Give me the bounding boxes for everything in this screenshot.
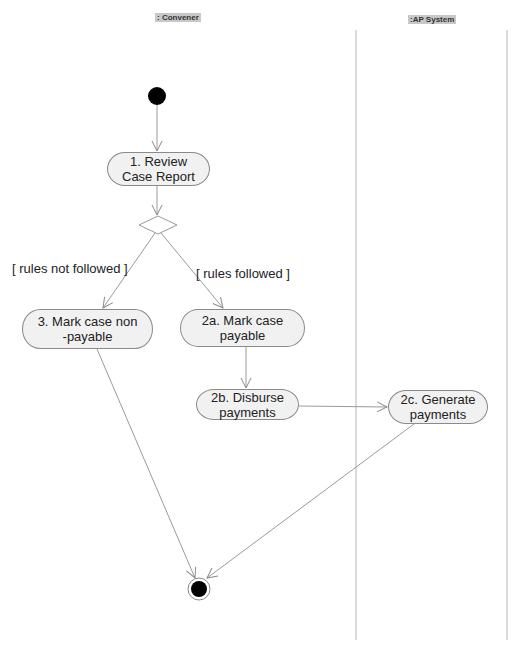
action-disburse-payments[interactable]: 2b. Disburse payments	[196, 389, 299, 420]
action-label: 2a. Mark case payable	[202, 313, 284, 343]
swimlane-label-convener: : Convener	[155, 13, 201, 22]
action-label: 2b. Disburse payments	[211, 390, 284, 420]
initial-node[interactable]	[148, 87, 166, 105]
edge-generate-to-final	[207, 424, 414, 578]
action-mark-case-payable[interactable]: 2a. Mark case payable	[180, 309, 305, 347]
final-node-core	[191, 581, 207, 597]
action-label: 3. Mark case non -payable	[38, 314, 138, 344]
action-generate-payments[interactable]: 2c. Generate payments	[388, 390, 488, 424]
guard-rules-not-followed: [ rules not followed ]	[12, 261, 128, 276]
action-label: 2c. Generate payments	[400, 392, 475, 422]
guard-rules-followed: [ rules followed ]	[196, 266, 290, 281]
swimlane-label-ap-system: :AP System	[408, 15, 456, 24]
edge-disburse-to-generate	[299, 406, 387, 407]
action-mark-case-non-payable[interactable]: 3. Mark case non -payable	[22, 309, 153, 349]
action-review-case-report[interactable]: 1. Review Case Report	[107, 152, 210, 186]
action-label: 1. Review Case Report	[122, 154, 195, 184]
edge-nonpayable-to-final	[97, 349, 195, 578]
decision-node[interactable]	[139, 216, 177, 234]
